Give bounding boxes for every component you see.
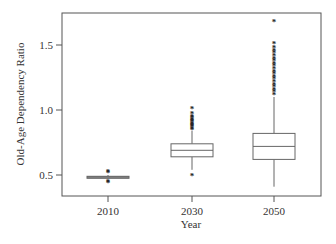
x-axis: 201020302050 <box>97 196 286 217</box>
box-2010: **** <box>87 167 129 189</box>
x-tick-label: 2050 <box>263 205 286 217</box>
box-plot-chart: 0.51.01.5 201020302050 *****************… <box>0 0 336 244</box>
outlier-marker: * <box>190 104 195 114</box>
outlier-marker: * <box>272 17 277 27</box>
box-2050: ********************* <box>253 17 295 187</box>
boxes: *************************************** <box>87 17 295 188</box>
outlier-marker: * <box>190 171 195 181</box>
x-tick-label: 2030 <box>181 205 204 217</box>
x-tick-label: 2010 <box>97 205 120 217</box>
outlier-marker: * <box>106 177 111 187</box>
y-tick-label: 0.5 <box>39 169 53 181</box>
y-tick-label: 1.0 <box>39 104 53 116</box>
y-axis-label: Old-Age Dependency Ratio <box>14 42 26 165</box>
y-axis: 0.51.01.5 <box>39 39 62 181</box>
y-tick-label: 1.5 <box>39 39 53 51</box>
outlier-marker: * <box>106 167 111 177</box>
x-axis-label: Year <box>181 218 202 230</box>
outlier-marker: * <box>272 39 277 49</box>
box-2030: ************** <box>171 104 213 180</box>
